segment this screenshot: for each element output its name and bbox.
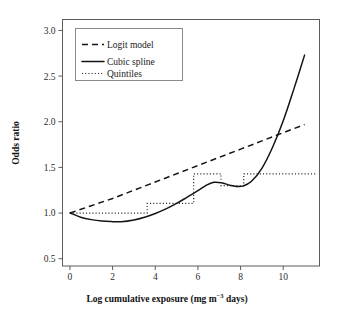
- legend-label-logit-model: Logit model: [107, 40, 154, 50]
- x-tick-label: 8: [238, 272, 243, 282]
- chart-legend: Logit model Cubic spline Quintiles: [76, 29, 183, 81]
- y-axis-title: Odds ratio: [11, 121, 21, 165]
- x-tick-label: 2: [110, 272, 115, 282]
- legend-label-quintiles: Quintiles: [107, 69, 142, 79]
- y-tick-label: 2.5: [44, 72, 56, 82]
- legend-label-cubic-spline: Cubic spline: [107, 57, 155, 67]
- x-tick-label: 6: [196, 272, 201, 282]
- x-axis-title-main: Log cumulative exposure (mg m: [86, 294, 216, 305]
- x-axis-title-tail: days): [224, 294, 248, 305]
- x-tick-label: 0: [68, 272, 73, 282]
- y-tick-label: 2.0: [44, 117, 56, 127]
- x-tick-label: 4: [153, 272, 158, 282]
- chart-canvas: 0.51.01.52.02.53.0 0246810 Logit model C…: [0, 0, 337, 324]
- odds-ratio-chart-figure: 0.51.01.52.02.53.0 0246810 Logit model C…: [0, 0, 337, 324]
- x-tick-label: 10: [278, 272, 288, 282]
- y-tick-label: 1.5: [44, 163, 56, 173]
- y-tick-label: 3.0: [44, 26, 56, 36]
- y-tick-label: 0.5: [44, 254, 56, 264]
- x-axis-title: Log cumulative exposure (mg m−3 days): [86, 292, 247, 305]
- y-tick-label: 1.0: [44, 208, 56, 218]
